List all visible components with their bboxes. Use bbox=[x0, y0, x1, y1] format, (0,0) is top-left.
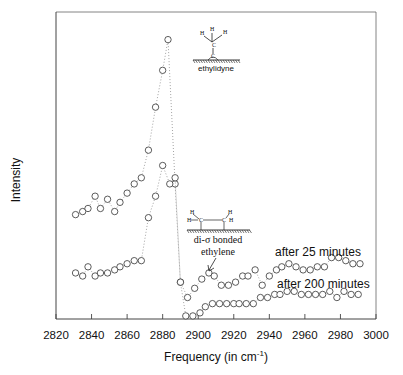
data-point bbox=[183, 313, 189, 319]
data-point bbox=[104, 270, 110, 276]
data-point bbox=[211, 273, 217, 279]
x-tick-label: 2980 bbox=[328, 329, 354, 341]
data-point bbox=[79, 273, 85, 279]
x-tick-label: 2880 bbox=[150, 329, 176, 341]
di-sigma-label-line2: ethylene bbox=[201, 246, 235, 257]
data-point bbox=[259, 282, 265, 288]
data-point bbox=[286, 261, 292, 267]
data-point bbox=[202, 304, 208, 310]
data-point bbox=[172, 175, 178, 181]
data-point bbox=[85, 205, 91, 211]
data-point bbox=[279, 264, 285, 270]
data-point bbox=[159, 67, 165, 73]
data-point bbox=[124, 190, 130, 196]
x-axis-title-main: Frequency (in cm bbox=[164, 350, 257, 364]
data-point bbox=[223, 300, 229, 306]
x-axis-tick-labels: 2820284028602880290029202940296029803000 bbox=[43, 329, 389, 341]
data-point bbox=[159, 162, 165, 168]
bond bbox=[204, 36, 212, 42]
x-tick-label: 2940 bbox=[257, 329, 283, 341]
ethylidyne-structure: H H H C C ethylidyne bbox=[193, 26, 240, 73]
data-point bbox=[236, 300, 242, 306]
data-point bbox=[138, 257, 144, 263]
data-point bbox=[138, 175, 144, 181]
data-point bbox=[191, 285, 197, 291]
data-point bbox=[124, 261, 130, 267]
data-point bbox=[334, 294, 340, 300]
data-point bbox=[117, 264, 123, 270]
data-point bbox=[225, 282, 231, 288]
atom-h: H bbox=[190, 209, 195, 215]
data-point bbox=[111, 208, 117, 214]
atom-h1: H bbox=[200, 30, 205, 36]
series-label-25min: after 25 minutes bbox=[275, 245, 361, 259]
data-point bbox=[298, 291, 304, 297]
data-point bbox=[245, 273, 251, 279]
data-point bbox=[314, 264, 320, 270]
ethylidyne-label: ethylidyne bbox=[198, 64, 235, 73]
x-tick-label: 2840 bbox=[79, 329, 105, 341]
data-point bbox=[72, 211, 78, 217]
data-point bbox=[293, 264, 299, 270]
hatch-mark bbox=[250, 230, 252, 233]
data-point bbox=[307, 267, 313, 273]
data-point bbox=[232, 279, 238, 285]
data-point bbox=[266, 273, 272, 279]
bond bbox=[212, 35, 222, 42]
data-point bbox=[357, 261, 363, 267]
di-sigma-ethylene-structure: H H C C H H di-σ bonded ethylene bbox=[187, 209, 252, 271]
data-point bbox=[355, 291, 361, 297]
data-point bbox=[85, 264, 91, 270]
annotation-arrow bbox=[209, 258, 216, 270]
series-after-25-minutes bbox=[72, 36, 363, 300]
data-point bbox=[264, 294, 270, 300]
data-point bbox=[131, 257, 137, 263]
data-point bbox=[209, 300, 215, 306]
data-point bbox=[97, 270, 103, 276]
x-axis-title: Frequency (in cm-1) bbox=[164, 349, 268, 364]
data-point bbox=[145, 147, 151, 153]
atom-h3: H bbox=[223, 29, 228, 35]
data-point bbox=[117, 199, 123, 205]
data-point bbox=[321, 264, 327, 270]
data-point bbox=[184, 294, 190, 300]
data-point bbox=[199, 276, 205, 282]
atom-c1: C bbox=[212, 42, 216, 48]
data-point bbox=[145, 214, 151, 220]
x-tick-label: 2860 bbox=[114, 329, 140, 341]
data-point bbox=[92, 193, 98, 199]
data-point bbox=[190, 313, 196, 319]
data-point bbox=[72, 270, 78, 276]
data-point bbox=[104, 196, 110, 202]
x-axis-title-suffix: ) bbox=[264, 350, 268, 364]
data-point bbox=[277, 291, 283, 297]
data-point bbox=[216, 300, 222, 306]
data-point bbox=[305, 291, 311, 297]
data-point bbox=[312, 291, 318, 297]
spectrum-chart: 2820284028602880290029202940296029803000… bbox=[0, 0, 403, 375]
x-tick-label: 2900 bbox=[185, 329, 211, 341]
x-axis-ticks bbox=[56, 314, 376, 319]
x-tick-label: 2920 bbox=[221, 329, 247, 341]
atom-h2: H bbox=[210, 26, 215, 32]
data-point bbox=[131, 181, 137, 187]
x-tick-label: 2960 bbox=[292, 329, 318, 341]
data-point bbox=[250, 300, 256, 306]
series-label-200min: after 200 minutes bbox=[277, 277, 370, 291]
data-point bbox=[177, 279, 183, 285]
data-point bbox=[243, 300, 249, 306]
x-tick-label: 3000 bbox=[363, 329, 389, 341]
data-point bbox=[152, 193, 158, 199]
y-axis-title: Intensity bbox=[9, 158, 23, 203]
di-sigma-label-line1: di-σ bonded bbox=[194, 234, 242, 245]
data-point bbox=[300, 267, 306, 273]
data-point bbox=[197, 310, 203, 316]
atom-c2: C bbox=[211, 53, 215, 59]
data-point bbox=[319, 291, 325, 297]
data-point bbox=[167, 181, 173, 187]
x-tick-label: 2820 bbox=[43, 329, 69, 341]
data-point bbox=[257, 294, 263, 300]
data-point bbox=[218, 282, 224, 288]
data-point bbox=[350, 261, 356, 267]
data-point bbox=[348, 291, 354, 297]
